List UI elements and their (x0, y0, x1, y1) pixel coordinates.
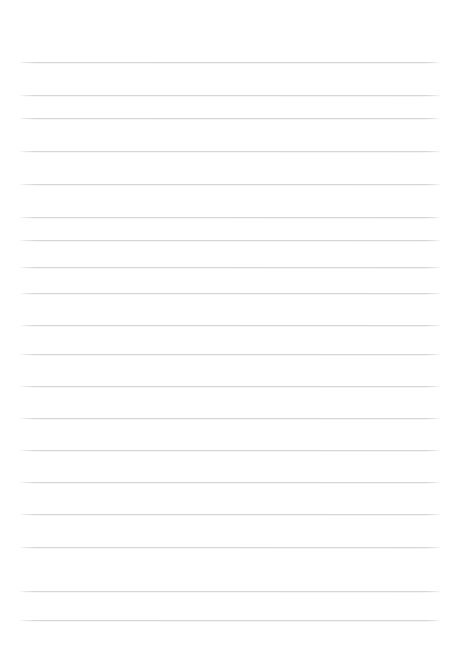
paper-sheet (0, 0, 461, 652)
paper-surface (0, 0, 461, 652)
